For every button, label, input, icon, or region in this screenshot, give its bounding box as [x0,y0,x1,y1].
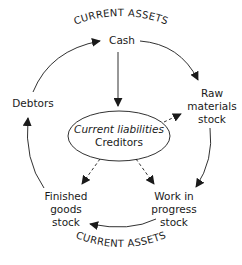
svg-text:goods: goods [50,203,82,215]
svg-text:stock: stock [52,216,81,228]
current-liabilities-label: Current liabilities [74,123,164,135]
arrow-debtors-to-cash [33,41,100,92]
arrow-cash-to-raw-materials [140,41,198,80]
node-work-in-progress-stock: Work in progress stock [151,190,196,228]
svg-text:Finished: Finished [44,190,87,202]
dashed-arrow-creditors-to-work-in-progress [136,159,154,184]
svg-text:Raw: Raw [201,87,223,99]
svg-text:materials: materials [187,100,236,112]
arrow-raw-materials-to-wip [196,128,211,187]
dashed-arrow-creditors-to-raw-materials [164,114,181,122]
current-assets-top-label: CURRENT ASSETS [72,7,170,27]
node-cash: Cash [109,34,135,46]
svg-text:stock: stock [160,216,189,228]
node-raw-materials-stock: Raw materials stock [187,87,236,125]
arrow-finished-goods-to-debtors [27,118,44,188]
arrow-wip-to-finished-goods [90,219,156,227]
working-capital-cycle-diagram: CURRENT ASSETS Cash Debtors Raw material… [0,0,242,265]
center-current-liabilities: Current liabilities Creditors [68,111,170,161]
dashed-arrow-creditors-to-finished-goods [82,159,100,184]
svg-text:Work in: Work in [154,190,194,202]
current-assets-bottom-label: CURRENT ASSETS [75,229,168,249]
svg-text:progress: progress [151,203,196,215]
node-debtors: Debtors [12,97,54,109]
node-finished-goods-stock: Finished goods stock [44,190,87,228]
svg-text:stock: stock [198,113,227,125]
creditors-label: Creditors [95,136,143,148]
